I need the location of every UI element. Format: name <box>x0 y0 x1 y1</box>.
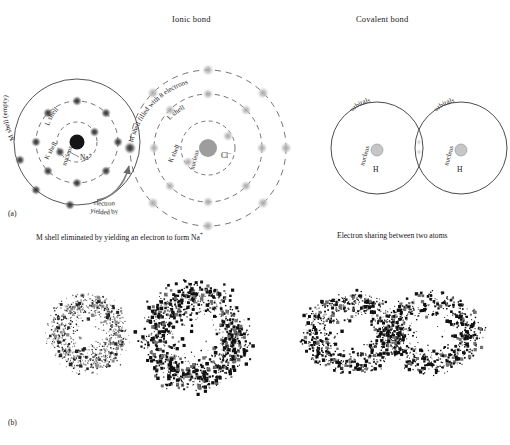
figure-root: Ionic bond Covalent bond (a) (b) M shell… <box>0 0 510 445</box>
hydrogen-molecule-cloud <box>299 289 486 376</box>
electron-cloud-layer <box>0 0 510 445</box>
chloride-ion-cloud <box>134 279 255 396</box>
sodium-ion-cloud <box>45 293 130 375</box>
